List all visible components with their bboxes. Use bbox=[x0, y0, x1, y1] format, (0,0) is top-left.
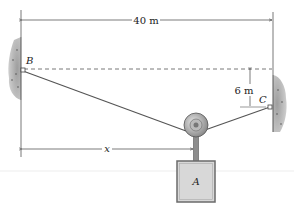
span-label: 40 m bbox=[133, 15, 159, 26]
cable-bc-left bbox=[23, 71, 186, 131]
cable-bc-right bbox=[205, 107, 270, 130]
pin-b bbox=[21, 68, 25, 72]
point-c-label: C bbox=[259, 94, 267, 105]
block-a: A bbox=[177, 161, 215, 202]
x-dimension: x bbox=[21, 100, 193, 157]
block-label: A bbox=[191, 176, 199, 187]
pulley bbox=[184, 113, 208, 137]
span-dimension: 40 m bbox=[21, 10, 273, 75]
sag-label: 6 m bbox=[234, 85, 254, 96]
pin-c bbox=[268, 105, 272, 109]
diagram-canvas: 40 m 6 m B C x A bbox=[0, 0, 294, 210]
right-wall bbox=[273, 75, 287, 132]
x-label: x bbox=[104, 143, 110, 154]
left-wall bbox=[8, 37, 21, 100]
point-b-label: B bbox=[25, 55, 33, 66]
